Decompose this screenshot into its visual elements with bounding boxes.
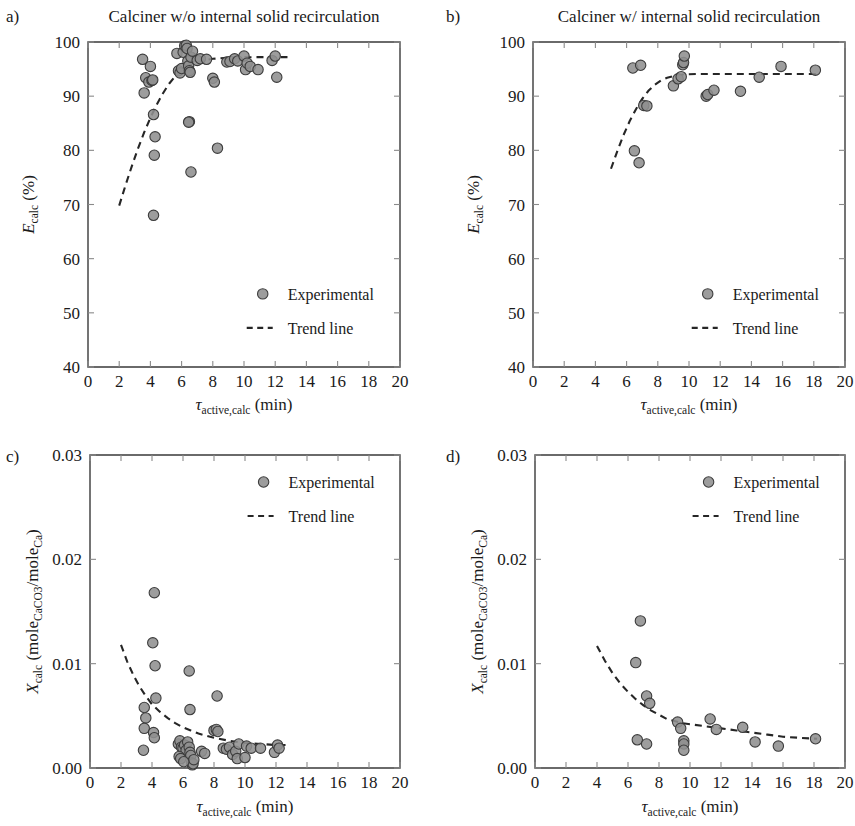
data-point (209, 77, 219, 87)
x-tick-label: 10 (681, 372, 698, 391)
x-tick-label: 6 (177, 372, 186, 391)
x-tick-label: 0 (84, 372, 93, 391)
y-axis-title-a: Ecalc (%) (19, 175, 40, 235)
x-tick-label: 16 (330, 773, 347, 792)
x-tick-label: 14 (298, 372, 316, 391)
x-tick-label: 6 (624, 773, 633, 792)
x-tick-label: 20 (392, 773, 409, 792)
x-tick-label: 2 (117, 773, 126, 792)
x-tick-label: 4 (591, 372, 600, 391)
y-axis-title-d: Xcalc (moleCaCO3/moleCa) (468, 529, 489, 694)
panel-a-svg: a)Calciner w/o internal solid recirculat… (0, 0, 430, 420)
data-point (185, 704, 195, 714)
data-point (150, 132, 160, 142)
data-point (151, 693, 161, 703)
data-point (679, 51, 689, 61)
y-tick-label: 70 (63, 196, 80, 215)
y-tick-label: 50 (63, 304, 80, 323)
data-point (200, 748, 210, 758)
y-tick-label: 70 (508, 196, 525, 215)
y-tick-label: 100 (55, 33, 81, 52)
x-tick-label: 2 (560, 372, 569, 391)
panel-letter-c: c) (6, 447, 19, 466)
data-point (145, 61, 155, 71)
data-point (138, 745, 148, 755)
panel-c-svg: c)024681012141618200.000.010.020.03Exper… (0, 420, 430, 826)
x-tick-label: 20 (392, 372, 409, 391)
series-experimental-a (137, 40, 282, 220)
legend-marker-experimental (258, 477, 268, 487)
data-point (676, 723, 686, 733)
y-tick-label: 100 (500, 33, 526, 52)
x-tick-label: 8 (210, 773, 219, 792)
data-point (184, 666, 194, 676)
x-axis-title-c: τactive,calc (min) (197, 797, 294, 819)
y-tick-label: 60 (508, 250, 525, 269)
data-point (635, 60, 645, 70)
x-tick-label: 12 (267, 372, 284, 391)
x-axis-title-b: τactive,calc (min) (641, 395, 738, 417)
data-point (183, 117, 193, 127)
y-tick-label: 0.03 (52, 446, 82, 465)
data-point (270, 51, 280, 61)
data-point (185, 67, 195, 77)
panel-title-a: Calciner w/o internal solid recirculatio… (109, 7, 380, 26)
data-point (635, 616, 645, 626)
data-point (255, 743, 265, 753)
y-tick-label: 50 (508, 304, 525, 323)
data-point (148, 210, 158, 220)
x-tick-label: 14 (744, 773, 762, 792)
data-point (738, 722, 748, 732)
data-point (139, 88, 149, 98)
data-point (149, 733, 159, 743)
legend-d: ExperimentalTrend line (693, 474, 821, 525)
data-point (810, 734, 820, 744)
panel-d-svg: d)024681012141618200.000.010.020.03Exper… (430, 420, 855, 826)
legend-label-trend: Trend line (288, 320, 354, 337)
legend-marker-experimental (258, 289, 268, 299)
legend-label-trend: Trend line (734, 508, 800, 525)
y-tick-label: 0.02 (52, 550, 82, 569)
data-point (149, 150, 159, 160)
data-point (642, 101, 652, 111)
legend-label-experimental: Experimental (289, 474, 376, 492)
data-point (274, 743, 284, 753)
x-tick-label: 18 (805, 372, 822, 391)
y-tick-label: 0.00 (52, 759, 82, 778)
data-point (711, 724, 721, 734)
x-tick-label: 16 (774, 372, 791, 391)
data-point (150, 661, 160, 671)
y-tick-label: 90 (63, 87, 80, 106)
axis-frame-b (533, 42, 845, 367)
legend-b: ExperimentalTrend line (692, 286, 820, 337)
data-point (253, 64, 263, 74)
data-point (631, 657, 641, 667)
data-point (705, 714, 715, 724)
data-point (201, 54, 211, 64)
data-point (141, 713, 151, 723)
panel-letter-d: d) (446, 447, 460, 466)
data-point (139, 702, 149, 712)
legend-a: ExperimentalTrend line (247, 286, 375, 337)
panel-letter-b: b) (446, 7, 460, 26)
y-tick-label: 40 (63, 358, 80, 377)
axis-frame-c (90, 455, 400, 768)
data-point (679, 745, 689, 755)
x-tick-label: 8 (655, 773, 664, 792)
y-tick-label: 0.03 (497, 446, 527, 465)
x-tick-label: 6 (179, 773, 188, 792)
legend-label-experimental: Experimental (733, 286, 820, 304)
panel-d: d)024681012141618200.000.010.020.03Exper… (430, 420, 855, 826)
x-tick-label: 10 (236, 372, 253, 391)
data-point (810, 65, 820, 75)
panel-title-b: Calciner w/ internal solid recirculation (558, 7, 821, 26)
x-tick-label: 18 (360, 372, 377, 391)
axis-frame-a (88, 42, 400, 367)
y-tick-label: 40 (508, 358, 525, 377)
y-axis-title-c: Xcalc (moleCaCO3/moleCa) (23, 529, 44, 694)
series-experimental-d (631, 616, 821, 756)
data-point (148, 638, 158, 648)
y-tick-label: 60 (63, 250, 80, 269)
x-axis-title-a: τactive,calc (min) (196, 395, 293, 417)
y-axis-title-b: Ecalc (%) (464, 175, 485, 235)
